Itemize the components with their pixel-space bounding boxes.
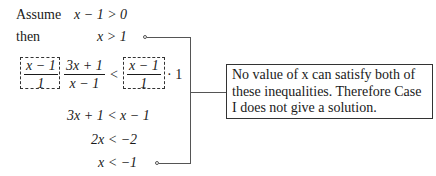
connector-bottom — [159, 163, 191, 164]
multiplier-right-denominator: 1 — [138, 76, 149, 91]
assume-expression: x − 1 > 0 — [74, 7, 127, 23]
fraction-bar — [64, 74, 105, 75]
times-one: · 1 — [167, 67, 182, 83]
then-expression: x > 1 — [97, 29, 127, 45]
bracket-vertical — [190, 37, 191, 164]
step-line-4: 2x < −2 — [91, 132, 137, 148]
multiplier-left-numerator: x − 1 — [24, 58, 58, 73]
connector-top — [147, 37, 191, 38]
fraction-bar — [127, 74, 161, 75]
multiplier-left-fraction: x − 1 1 — [24, 58, 58, 91]
multiplier-right-fraction: x − 1 1 — [127, 58, 161, 91]
explanation-note: No value of x can satisfy both of these … — [226, 64, 433, 119]
main-fraction: 3x + 1 x − 1 — [64, 58, 105, 91]
fraction-bar — [24, 74, 58, 75]
step-line-3: 3x + 1 < x − 1 — [67, 108, 150, 124]
connector-to-note — [190, 92, 227, 93]
multiplier-right-numerator: x − 1 — [127, 58, 161, 73]
less-than-sign: < — [110, 67, 118, 83]
assume-label: Assume — [16, 7, 61, 23]
step-line-5: x < −1 — [98, 155, 137, 171]
then-label: then — [16, 29, 40, 45]
main-numerator: 3x + 1 — [64, 58, 105, 73]
multiplier-left-denominator: 1 — [35, 76, 46, 91]
main-denominator: x − 1 — [68, 76, 102, 91]
